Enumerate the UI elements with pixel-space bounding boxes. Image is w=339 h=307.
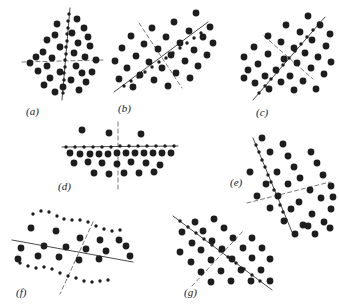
panel-d: (d): [58, 122, 178, 193]
panel-c-data-dot: [255, 61, 262, 68]
panel-e-axis-dot: [272, 188, 275, 191]
panel-g-data-dot: [259, 245, 266, 252]
panel-a: (a): [22, 8, 103, 118]
panel-c-data-dot: [241, 75, 248, 82]
panel-d-data-dot: [138, 131, 145, 138]
panel-c-data-dot: [262, 73, 269, 80]
panel-b-axis-dot: [122, 84, 125, 87]
panel-c-data-dot: [265, 51, 272, 58]
panel-c-data-dot: [251, 44, 258, 51]
panel-b-data-dot: [119, 45, 126, 52]
panel-a-axis-dot: [64, 45, 67, 48]
panel-f-axis-dot: [47, 210, 50, 213]
panel-c-axis-dot: [257, 91, 260, 94]
panel-g-axis-dot: [226, 255, 229, 258]
panel-d-data-dot: [85, 159, 92, 166]
panel-f-data-dot: [116, 237, 123, 244]
panel-e-axis-dot: [263, 165, 266, 168]
panel-g-data-dot: [248, 278, 255, 285]
panel-g-data-dot: [258, 267, 265, 274]
panel-d-data-dot: [77, 151, 84, 158]
panel-g-data-dot: [327, 225, 334, 232]
panel-f-axis-dot: [26, 264, 29, 267]
panel-d-data-dot: [136, 170, 143, 177]
figure-canvas: (a)(b)(c)(d)(e)(f)(g): [0, 0, 339, 307]
panel-a-data-dot: [69, 30, 76, 37]
panel-f-axis-dot: [74, 276, 77, 279]
panel-e-data-dot: [254, 193, 261, 200]
panel-a-data-dot: [52, 89, 59, 96]
panel-f-data-dot: [41, 243, 48, 250]
panel-e-axis-dot: [281, 210, 284, 213]
panel-e-data-dot: [263, 181, 270, 188]
panel-b-axis-dot: [129, 79, 132, 82]
panel-d-axis-dot: [172, 144, 175, 147]
panel-b-data-dot: [210, 40, 217, 47]
panel-b-axis-dot: [178, 46, 181, 49]
panel-c-data-dot: [278, 39, 285, 46]
panel-d-axis-dot: [91, 145, 94, 148]
panel-f-axis-dot: [50, 267, 53, 270]
panel-g-axis-dot: [242, 267, 245, 270]
panel-f-axis-dot: [98, 279, 101, 282]
panel-c-axis-dot: [263, 84, 266, 87]
panel-f-axis-dot: [62, 217, 65, 220]
panel-e-data-dot: [328, 206, 335, 213]
panel-f-data-dot: [96, 256, 103, 263]
panel-d-axis-dot: [127, 144, 130, 147]
panel-d-data-dot: [106, 130, 113, 137]
panel-f-data-dot: [127, 253, 134, 260]
panel-b-principal-axis: [114, 22, 208, 92]
panel-g-axis-dot: [194, 231, 197, 234]
panel-label-g: (g): [184, 286, 197, 299]
panel-b-data-dot: [191, 47, 198, 54]
panel-f-principal-axis: [12, 240, 133, 262]
panel-b-data-dot: [128, 33, 135, 40]
panel-c-data-dot: [305, 13, 312, 20]
panel-b-data-dot: [112, 58, 119, 65]
panel-f-axis-dot: [78, 218, 81, 221]
panel-a-data-dot: [75, 40, 82, 47]
panel-b-axis-dot: [164, 56, 167, 59]
panel-e-data-dot: [247, 169, 254, 176]
panel-a-data-dot: [57, 69, 64, 76]
panel-b-data-dot: [173, 70, 180, 77]
panel-d-axis-dot: [100, 145, 103, 148]
panel-b-axis-dot: [171, 51, 174, 54]
panel-a-axis-dot: [65, 39, 68, 42]
panel-c-data-dot: [308, 65, 315, 72]
panel-f-data-dot: [63, 244, 70, 251]
panel-f-data-dot: [18, 245, 25, 252]
panel-b-data-dot: [163, 34, 170, 41]
panel-e-data-dot: [267, 149, 274, 156]
panel-c-data-dot: [328, 59, 335, 66]
panel-g-data-dot: [188, 259, 195, 266]
panel-c-data-dot: [313, 86, 320, 93]
panel-a-data-dot: [33, 54, 40, 61]
panel-f-axis-dot: [18, 261, 21, 264]
panel-a-data-dot: [41, 82, 48, 89]
panel-e-data-dot: [267, 205, 274, 212]
panel-b-data-dot: [187, 75, 194, 82]
panel-label-d: (d): [58, 180, 71, 193]
panel-f-axis-dot: [86, 220, 89, 223]
panel-d-axis-dot: [82, 145, 85, 148]
panel-g-data-dot: [249, 235, 256, 242]
panel-f-axis-dot: [34, 266, 37, 269]
panel-e-data-dot: [318, 195, 325, 202]
panel-e-data-dot: [285, 153, 292, 160]
panel-f-axis-dot: [94, 224, 97, 227]
panel-label-b: (b): [118, 102, 131, 115]
panel-b-data-dot: [177, 40, 184, 47]
panel-d-axis-dot: [154, 144, 157, 147]
panel-b-data-dot: [141, 41, 148, 48]
panel-d-data-dot: [150, 150, 157, 157]
panel-a-axis-dot: [67, 12, 70, 15]
panel-d-data-dot: [106, 171, 113, 178]
panel-g-axis-dot: [250, 273, 253, 276]
panel-d-data-dot: [96, 151, 103, 158]
panel-d-data-dot: [121, 170, 128, 177]
panel-f-axis-dot: [42, 265, 45, 268]
panel-g-data-dot: [179, 229, 186, 236]
panel-g-data-dot: [230, 235, 237, 242]
